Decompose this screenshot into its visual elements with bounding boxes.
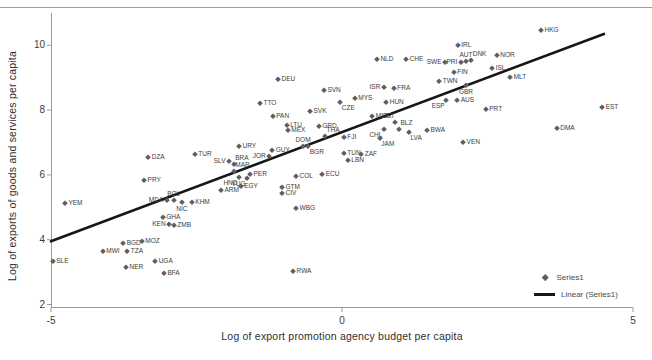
legend-series1-label: Series1 [557, 273, 584, 282]
scatter-point-label: ZMB [177, 222, 191, 229]
scatter-point-label: SVN [327, 87, 340, 94]
scatter-point-label: IRL [461, 42, 471, 49]
scatter-point-label: GHA [166, 214, 180, 221]
scatter-point-label: BFA [167, 270, 179, 277]
scatter-point-label: GBR [459, 89, 473, 96]
scatter-point-label: LBN [351, 157, 364, 164]
legend-item-series1: Series1 [528, 269, 618, 286]
scatter-point-label: HUN [390, 99, 404, 106]
axes-and-trendline [0, 0, 652, 360]
legend-item-linear: Linear (Series1) [528, 286, 618, 303]
scatter-point-label: CZE [342, 105, 355, 112]
scatter-point-label: DNK [473, 50, 487, 57]
scatter-point-label: ZAF [365, 151, 377, 158]
y-axis-title: Log of exports of goods and services per… [6, 31, 18, 301]
x-tick-label: -5 [47, 315, 56, 326]
scatter-chart: Log of exports of goods and services per… [0, 0, 652, 360]
scatter-point-label: FIN [457, 69, 467, 76]
y-tick-label: 8 [39, 104, 45, 115]
scatter-point-label: TUR [198, 151, 211, 158]
scatter-point-label: MYS [358, 95, 372, 102]
scatter-point-label: BOL [167, 190, 180, 197]
scatter-point-label: TZA [131, 248, 143, 255]
scatter-point-label: JAM [381, 141, 394, 148]
y-tick-label: 10 [34, 40, 45, 51]
linear-trendline [51, 34, 604, 241]
scatter-point-label: MDA [149, 197, 163, 204]
scatter-point-label: PRI [446, 59, 457, 66]
scatter-point-label: NOR [500, 52, 514, 59]
scatter-point-label: PRT [489, 106, 502, 113]
y-tick-label: 4 [39, 234, 45, 245]
scatter-point-label: BGR [310, 149, 324, 156]
trendline-swatch-icon [534, 293, 555, 295]
y-tick-label: 6 [39, 169, 45, 180]
scatter-point-label: YEM [68, 200, 82, 207]
scatter-point-label: WBG [300, 205, 316, 212]
scatter-point-label: MWI [106, 248, 119, 255]
scatter-point-label: PAN [276, 113, 289, 120]
scatter-point-label: TWN [443, 78, 458, 85]
x-tick-label: 5 [630, 315, 636, 326]
scatter-point-label: VEN [467, 139, 480, 146]
scatter-point-label: KHM [195, 199, 209, 206]
scatter-point-label: SLE [56, 258, 68, 265]
scatter-point-label: BWA [430, 127, 445, 134]
scatter-point-label: DOM [295, 136, 310, 143]
scatter-point-label: CHE [410, 56, 424, 63]
scatter-point-label: EGY [244, 183, 258, 190]
scatter-point-label: LVA [410, 135, 421, 142]
scatter-point-label: RWA [297, 268, 312, 275]
y-tick-label: 2 [39, 299, 45, 310]
legend-linear-label: Linear (Series1) [561, 290, 618, 299]
scatter-point-label: KEN [152, 221, 165, 228]
scatter-point-label: URY [242, 143, 256, 150]
scatter-point-label: SLV [214, 158, 226, 165]
scatter-point-label: AUS [461, 97, 474, 104]
scatter-point-label: DMA [560, 125, 574, 132]
scatter-point-label: BLZ [401, 119, 413, 126]
scatter-point-label: UGA [159, 258, 173, 265]
scatter-point-label: GUY [276, 147, 290, 154]
scatter-point-label: NIC [176, 206, 187, 213]
scatter-point-label: EST [606, 104, 619, 111]
scatter-point-label: CIV [286, 190, 297, 197]
scatter-point-label: HKG [545, 27, 559, 34]
scatter-point-label: FRA [397, 85, 410, 92]
scatter-point-label: PRY [148, 177, 161, 184]
scatter-point-label: NER [130, 264, 144, 271]
scatter-point-label: CRI [382, 112, 393, 119]
scatter-point-label: SWE [427, 59, 442, 66]
scatter-point-label: MLT [514, 74, 527, 81]
scatter-point-label: ARM [224, 187, 238, 194]
scatter-point-label: ESP [432, 103, 445, 110]
scatter-point-label: MOZ [145, 238, 159, 245]
scatter-point-label: NLD [380, 56, 393, 63]
legend: Series1 Linear (Series1) [528, 269, 618, 303]
scatter-point-label: THA [327, 126, 340, 133]
scatter-point-label: DZA [152, 154, 165, 161]
scatter-point-label: ISL [496, 65, 506, 72]
scatter-point-label: TTO [263, 100, 276, 107]
scatter-point-label: FJI [347, 134, 356, 141]
scatter-point-label: ISR [370, 84, 381, 91]
scatter-point-label: JOR [253, 153, 266, 160]
scatter-point-label: MAR [235, 161, 249, 168]
scatter-point-label: PER [254, 171, 267, 178]
x-axis-title: Log of export promotion agency budget pe… [51, 330, 633, 342]
scatter-point-label: MEX [291, 127, 305, 134]
diamond-marker-icon [542, 274, 548, 280]
scatter-point-label: DEU [281, 76, 295, 83]
scatter-point-label: ECU [326, 171, 340, 178]
scatter-point-label: COL [300, 173, 313, 180]
scatter-point-label: SVK [313, 108, 326, 115]
x-tick-label: 0 [339, 315, 345, 326]
